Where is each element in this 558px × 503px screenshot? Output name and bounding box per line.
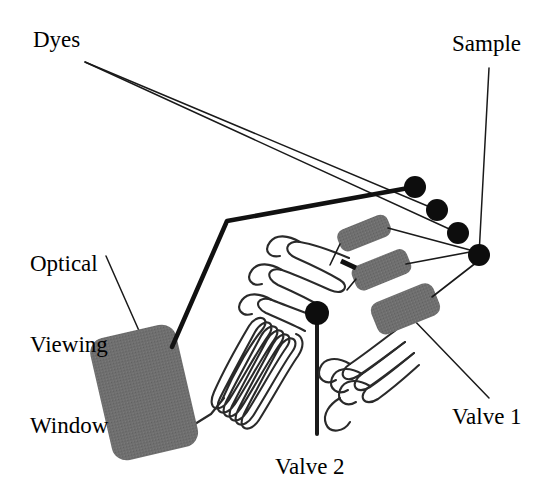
label-dyes: Dyes — [33, 26, 80, 53]
label-sample: Sample — [452, 30, 521, 57]
bar2-port-connector — [406, 252, 470, 264]
valve-bar-1[interactable] — [335, 212, 394, 254]
label-optical-line-2: Viewing — [30, 331, 108, 358]
valve-2-junction-dot[interactable] — [305, 301, 329, 325]
optical-window-leader-line — [106, 256, 140, 333]
valve-1-leader-line — [410, 316, 489, 398]
dye-port-b-dot[interactable] — [426, 199, 448, 221]
label-optical-line-1: Optical — [30, 250, 108, 277]
label-valve-2: Valve 2 — [275, 453, 345, 480]
diagram-canvas: Dyes Sample Optical Viewing Window Valve… — [0, 0, 558, 503]
stop-tick-icon — [341, 261, 356, 268]
dye-port-c-dot[interactable] — [447, 222, 469, 244]
upper-serpentine-channel — [239, 236, 349, 331]
dyes-leader-line-b — [85, 62, 458, 233]
label-valve-1: Valve 1 — [452, 403, 522, 430]
bar3-port-connector — [432, 262, 477, 297]
lower-serpentine-channel — [212, 318, 303, 429]
label-optical-line-3: Window — [30, 412, 108, 439]
valve-bar-3[interactable] — [368, 281, 443, 338]
sample-port-dot[interactable] — [468, 244, 490, 266]
right-serpentine-channel — [319, 330, 419, 431]
valve-bar-2[interactable] — [349, 247, 413, 293]
dye-port-a-dot[interactable] — [404, 176, 426, 198]
sample-leader-line — [479, 68, 489, 255]
dyes-leader-line-a — [85, 62, 437, 210]
bar2-inlet-connector — [347, 279, 356, 290]
label-optical-viewing-window: Optical Viewing Window — [30, 196, 108, 493]
